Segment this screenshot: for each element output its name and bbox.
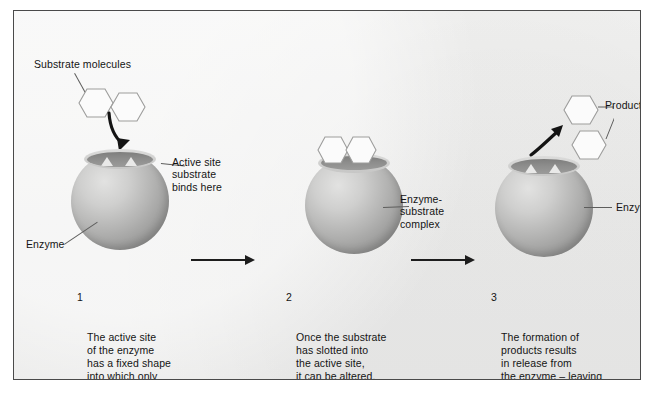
curved-arrow-up-right-icon bbox=[527, 115, 573, 159]
process-arrow-2-line bbox=[411, 259, 467, 261]
step-2-caption: 2 Once the substrate has slotted into th… bbox=[286, 291, 436, 380]
label-enzyme-right: Enzyme bbox=[616, 201, 641, 213]
enzyme-action-diagram: Substrate molecules Active site s bbox=[0, 0, 654, 401]
active-site-tooth bbox=[101, 157, 113, 166]
active-site-tooth bbox=[525, 164, 537, 173]
label-substrate-molecules: Substrate molecules bbox=[34, 58, 131, 70]
leader-line-enzyme-right bbox=[584, 207, 612, 208]
bound-substrate-pair bbox=[316, 135, 378, 165]
label-active-site: Active site substrate binds here bbox=[172, 156, 222, 193]
process-arrow-2-head bbox=[465, 255, 475, 265]
label-enzyme-substrate-complex: Enzyme- substrate complex bbox=[400, 193, 444, 230]
step-3-text: The formation of products results in rel… bbox=[501, 331, 641, 380]
active-site-tooth bbox=[125, 157, 137, 166]
step-1-number: 1 bbox=[77, 291, 83, 304]
process-arrow-1-line bbox=[191, 259, 247, 261]
step-3-caption: 3 The formation of products results in r… bbox=[491, 291, 641, 380]
step-2-number: 2 bbox=[286, 291, 292, 304]
step-1-text: The active site of the enzyme has a fixe… bbox=[87, 331, 217, 380]
diagram-plate: Substrate molecules Active site s bbox=[13, 10, 641, 380]
label-enzyme-left: Enzyme bbox=[26, 238, 65, 250]
process-arrow-1-head bbox=[245, 255, 255, 265]
step-1-caption: 1 The active site of the enzyme has a fi… bbox=[77, 291, 217, 380]
step-2-text: Once the substrate has slotted into the … bbox=[296, 331, 436, 380]
active-site-cavity-step3 bbox=[511, 159, 577, 174]
active-site-tooth bbox=[549, 164, 561, 173]
active-site-cavity-step1 bbox=[87, 152, 153, 167]
step-3-number: 3 bbox=[491, 291, 497, 304]
label-products: Products bbox=[605, 99, 641, 111]
